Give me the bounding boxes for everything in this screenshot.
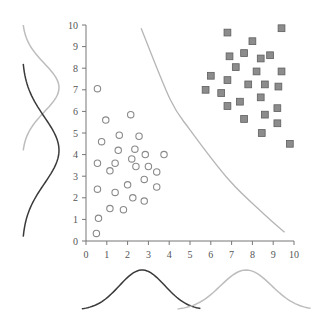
squares-x-density-curve [178,270,311,309]
circle-data-point [154,184,160,190]
circle-data-point [161,151,167,157]
y-tick-label: 2 [73,192,78,203]
square-data-point [275,83,282,90]
y-tick-label: 3 [73,171,78,182]
square-data-point [261,111,268,118]
square-data-point [207,72,214,79]
bottom-marginal-densities [82,270,311,309]
y-tick-label: 6 [73,106,78,117]
x-tick-label: 1 [104,249,109,260]
square-data-point [232,64,239,71]
circle-data-point [116,132,122,138]
square-data-point [253,68,260,75]
circle-data-point [115,147,121,153]
x-tick-label: 4 [167,249,172,260]
x-tick-label: 10 [289,249,299,260]
square-data-point [226,53,233,60]
square-data-point [224,103,231,110]
circle-data-point [107,205,113,211]
circle-data-point [112,160,118,166]
circle-data-point [141,176,147,182]
x-tick-label: 5 [188,249,193,260]
square-data-point [202,86,209,93]
circle-data-point [145,163,151,169]
circle-data-point [120,206,126,212]
y-tick-label: 0 [73,236,78,247]
circle-data-point [107,168,113,174]
scatter-chart: 012345678910 012345678910 [0,0,328,330]
circle-data-point [129,156,135,162]
circle-data-point [98,138,104,144]
y-tick-label: 9 [73,41,78,52]
circle-class-points [93,86,167,237]
square-data-point [258,130,265,137]
square-data-point [274,120,281,127]
square-data-point [224,77,231,84]
square-data-point [218,90,225,97]
square-data-point [249,38,256,45]
y-tick-label: 1 [73,214,78,225]
y-tick-label: 8 [73,63,78,74]
y-tick-label: 7 [73,84,78,95]
square-data-point [267,52,274,59]
left-marginal-densities [23,25,59,237]
circle-data-point [94,186,100,192]
circle-data-point [142,151,148,157]
square-data-point [224,29,231,36]
y-tick-label: 4 [73,149,78,160]
circle-data-point [112,189,118,195]
circle-data-point [103,117,109,123]
square-data-point [241,50,248,57]
x-tick-label: 7 [229,249,234,260]
x-axis-ticks: 012345678910 [84,241,300,260]
x-tick-label: 8 [250,249,255,260]
circle-data-point [130,195,136,201]
circle-data-point [136,133,142,139]
circle-data-point [128,111,134,117]
x-tick-label: 9 [271,249,276,260]
x-tick-label: 6 [208,249,213,260]
circle-data-point [93,230,99,236]
square-data-point [241,116,248,123]
circle-data-point [141,198,147,204]
x-tick-label: 3 [146,249,151,260]
square-data-point [257,55,264,62]
square-data-point [278,25,285,32]
circles-x-density-curve [82,270,201,309]
circle-data-point [154,169,160,175]
square-data-point [286,140,293,147]
circle-data-point [132,146,138,152]
circle-data-point [124,182,130,188]
square-data-point [237,98,244,105]
y-tick-label: 5 [73,128,78,139]
y-axis-ticks: 012345678910 [68,20,86,247]
circle-data-point [94,86,100,92]
square-class-points [202,25,293,147]
circles-y-density-curve [23,64,59,237]
square-data-point [245,81,252,88]
y-tick-label: 10 [68,20,78,31]
x-tick-label: 2 [125,249,130,260]
square-data-point [257,94,264,101]
square-data-point [278,68,285,75]
circle-data-point [94,160,100,166]
circle-data-point [133,163,139,169]
circle-data-point [95,215,101,221]
square-data-point [261,81,268,88]
square-data-point [274,105,281,112]
x-tick-label: 0 [84,249,89,260]
